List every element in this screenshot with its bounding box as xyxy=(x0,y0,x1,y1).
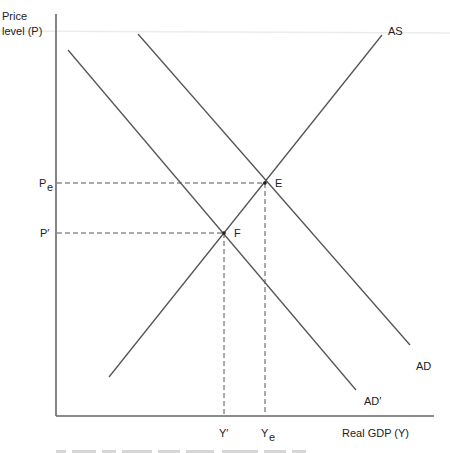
pe-label: P xyxy=(39,177,46,189)
ye-label: Y xyxy=(261,427,269,439)
point-f-label: F xyxy=(234,227,241,239)
x-axis-label: Real GDP (Y) xyxy=(342,427,409,439)
pe-subscript: e xyxy=(47,181,53,193)
as-curve xyxy=(109,35,382,377)
ad-label: AD xyxy=(416,360,431,372)
as-label: AS xyxy=(388,25,403,37)
y-axis-label-line2: level (P) xyxy=(2,25,42,37)
y-axis-label-line1: Price xyxy=(2,10,27,22)
ad-prime-label: AD′ xyxy=(364,395,381,407)
y-prime-label: Y′ xyxy=(219,427,228,439)
point-e-label: E xyxy=(275,177,282,189)
p-prime-label: P′ xyxy=(40,227,49,239)
ad-prime-curve xyxy=(68,50,356,390)
ye-subscript: e xyxy=(269,431,275,443)
scan-artifact-line xyxy=(0,31,450,33)
as-ad-diagram: Price level (P) Real GDP (Y) AS AD AD′ E… xyxy=(0,0,450,453)
point-f-marker xyxy=(222,231,226,235)
point-e-marker xyxy=(263,181,267,185)
ad-curve xyxy=(138,34,410,345)
